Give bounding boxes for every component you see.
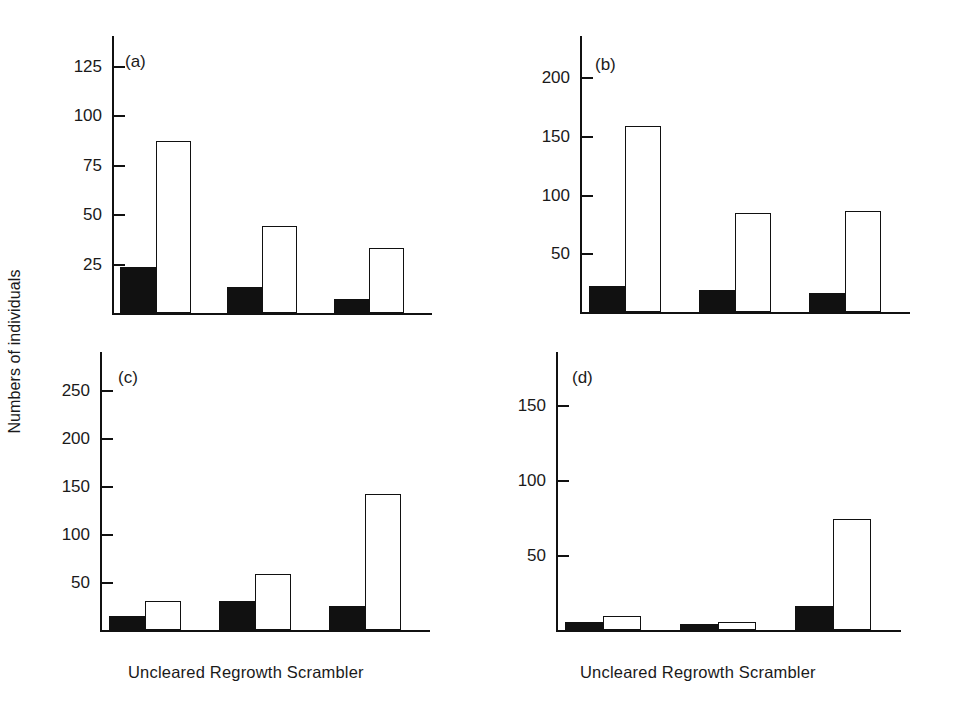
figure-bar-chart-panels: Numbers of individuals 255075100125(a)50… — [0, 0, 965, 703]
y-axis-tick-label: 100 — [494, 472, 546, 489]
bar-solid — [795, 606, 833, 630]
y-axis-tick — [558, 405, 569, 407]
y-axis-tick-label: 50 — [494, 547, 546, 564]
bar-solid — [680, 624, 718, 630]
panel-tag: (d) — [572, 368, 593, 388]
y-axis-tick — [558, 555, 569, 557]
x-axis-labels-right: Uncleared Regrowth Scrambler — [580, 663, 816, 682]
bar-open — [603, 616, 641, 630]
y-axis-line — [556, 352, 558, 632]
bar-solid — [565, 622, 603, 630]
bar-open — [833, 519, 871, 630]
y-axis-tick-label: 150 — [494, 397, 546, 414]
x-axis-labels-left: Uncleared Regrowth Scrambler — [128, 663, 364, 682]
y-axis-tick — [558, 480, 569, 482]
chart-panel-d: 50100150(d) — [0, 0, 965, 703]
x-axis-line — [556, 630, 901, 632]
bar-open — [718, 622, 756, 630]
